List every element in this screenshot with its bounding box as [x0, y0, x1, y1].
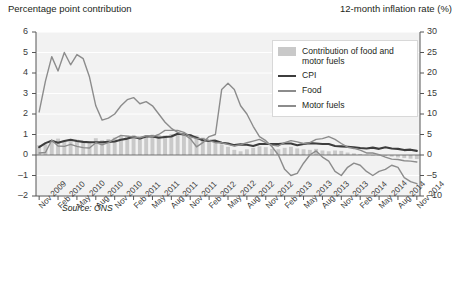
legend-label-cpi: CPI: [302, 70, 316, 80]
y-axis-right-tick-label: 15: [427, 88, 451, 98]
y-axis-left-tick-label: 5: [6, 47, 28, 57]
inflation-contribution-chart: Percentage point contribution 12-month i…: [0, 0, 458, 286]
legend-item-contribution: Contribution of food and motor fuels: [278, 46, 411, 66]
legend-line-motor-fuels-icon: [278, 100, 296, 111]
y-axis-right-tick-label: 20: [427, 67, 451, 77]
y-axis-left-tick-label: 3: [6, 88, 28, 98]
y-axis-left-tick-label: 6: [6, 26, 28, 36]
chart-legend: Contribution of food and motor fuels CPI…: [272, 40, 418, 117]
legend-label-motor-fuels: Motor fuels: [302, 100, 345, 110]
y-axis-left-tick-label: 0: [6, 149, 28, 159]
y-axis-right-tick-label: 0: [427, 149, 451, 159]
y-axis-right-tick-label: 5: [427, 129, 451, 139]
legend-label-contribution: Contribution of food and motor fuels: [302, 46, 411, 66]
y-axis-left-tick-label: –1: [6, 170, 28, 180]
legend-item-motor-fuels: Motor fuels: [278, 100, 411, 111]
legend-item-cpi: CPI: [278, 70, 411, 81]
y-axis-left-tick-label: 2: [6, 108, 28, 118]
y-axis-right-tick-label: –5: [427, 170, 451, 180]
y-axis-left-tick-label: –2: [6, 190, 28, 200]
y-axis-right-tick-label: 25: [427, 47, 451, 57]
legend-line-cpi-icon: [278, 70, 296, 81]
legend-item-food: Food: [278, 85, 411, 96]
y-axis-left-tick-label: 1: [6, 129, 28, 139]
y-axis-left-tick-label: 4: [6, 67, 28, 77]
y-axis-right-tick-label: 10: [427, 108, 451, 118]
legend-line-food-icon: [278, 85, 296, 96]
legend-bar-swatch-icon: [278, 46, 296, 57]
legend-label-food: Food: [302, 85, 322, 95]
y-axis-right-tick-label: 30: [427, 26, 451, 36]
